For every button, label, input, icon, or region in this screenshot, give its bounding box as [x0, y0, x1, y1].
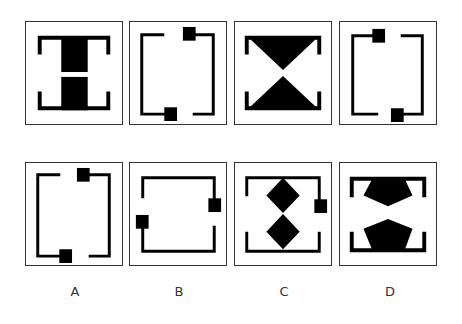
- bracket-squares-figure: [340, 22, 436, 124]
- rotated-bracket-squares-figure: [130, 163, 226, 265]
- diamonds-square-figure: [235, 163, 331, 265]
- option-label-b: B: [164, 284, 194, 299]
- sequence-panel-4: [339, 21, 437, 125]
- bracket-squares-figure: [26, 163, 122, 265]
- sequence-panel-2: [129, 21, 227, 125]
- sequence-panel-1: [25, 21, 123, 125]
- pentagons-figure: [340, 163, 436, 265]
- option-panel-a[interactable]: [25, 162, 123, 266]
- option-panel-d[interactable]: [339, 162, 437, 266]
- option-label-d: D: [375, 284, 405, 299]
- option-label-a: A: [60, 284, 90, 299]
- option-label-c: C: [269, 284, 299, 299]
- h-shape-figure: [26, 22, 122, 124]
- bracket-squares-figure: [130, 22, 226, 124]
- option-panel-b[interactable]: [129, 162, 227, 266]
- option-panel-c[interactable]: [234, 162, 332, 266]
- sequence-panel-3: [234, 21, 332, 125]
- hourglass-triangles-figure: [235, 22, 331, 124]
